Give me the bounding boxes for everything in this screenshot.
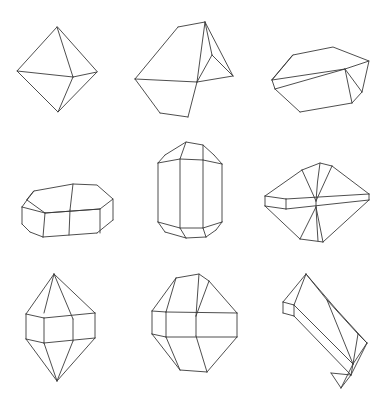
figure-background bbox=[0, 0, 380, 403]
crystal-plate-svg bbox=[0, 0, 380, 403]
crystal-habit-figure: Dipyramid Truncated dipyramid Horizontal… bbox=[0, 0, 380, 403]
